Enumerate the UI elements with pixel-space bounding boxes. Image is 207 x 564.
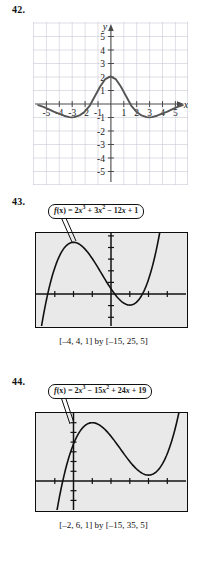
y-tick-label: -3 <box>97 140 105 150</box>
callout-leader-line-44 <box>50 396 90 428</box>
y-axis-arrow <box>108 24 114 31</box>
callout-term-3: − 12x <box>105 206 126 215</box>
y-tick-label: 5 <box>100 32 105 42</box>
callout-equals: = <box>66 386 75 395</box>
calc-plot-43 <box>36 233 186 326</box>
function-callout-44: f(x) = 2x3 − 15x2 + 24x + 19 <box>48 384 152 399</box>
callout-arg: (x) <box>57 206 66 215</box>
coordinate-graph-42: -5 -4 -3 -2 -1 1 2 3 4 5 5 4 3 2 1 -1 -2… <box>33 22 188 185</box>
y-tick-label: 4 <box>100 46 105 56</box>
window-caption-44: [–2, 6, 1] by [–15, 35, 5] <box>0 520 207 530</box>
problem-42-number: 42. <box>12 4 25 15</box>
callout-equals: = <box>66 206 75 215</box>
callout-term-2: + 3x2 <box>86 206 106 215</box>
callout-term-1: 2x3 <box>75 386 86 395</box>
y-tick-label: -1 <box>97 113 105 123</box>
y-tick-label: -2 <box>97 127 105 137</box>
callout-term-3: + 24x <box>109 386 130 395</box>
y-axis-label: y <box>102 22 108 32</box>
problem-43-figure: f(x) = 2x3 + 3x2 − 12x + 1 <box>0 190 207 365</box>
callout-term-4: + 19 <box>130 386 147 395</box>
y-tick-label: 3 <box>100 59 105 69</box>
callout-term-4: + 1 <box>126 206 139 215</box>
function-callout-43: f(x) = 2x3 + 3x2 − 12x + 1 <box>48 204 144 219</box>
y-tick-label: 1 <box>100 86 105 96</box>
callout-term-2: − 15x2 <box>86 386 110 395</box>
window-caption-43: [–4, 4, 1] by [–15, 25, 5] <box>0 336 207 346</box>
calculator-screen-43[interactable] <box>35 232 188 328</box>
axes <box>35 28 179 182</box>
problem-42-figure: -5 -4 -3 -2 -1 1 2 3 4 5 5 4 3 2 1 -1 -2… <box>33 22 188 185</box>
callout-arg: (x) <box>57 386 66 395</box>
x-axis-label: x <box>183 99 188 110</box>
y-tick-label: -5 <box>97 167 105 177</box>
x-tick-label: 1 <box>121 108 126 118</box>
y-tick-label: -4 <box>97 154 105 164</box>
problem-44-figure: f(x) = 2x3 − 15x2 + 24x + 19 <box>0 370 207 550</box>
x-tick-labels: -5 -4 -3 -2 -1 1 2 3 4 5 <box>42 108 178 118</box>
callout-term-1: 2x3 <box>75 206 86 215</box>
plotted-curve <box>42 233 160 326</box>
callout-leader-line-43 <box>50 216 90 246</box>
